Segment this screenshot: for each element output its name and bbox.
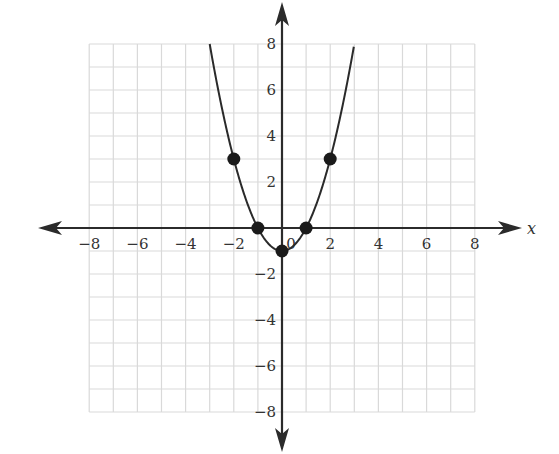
x-tick-label: −8 [78, 235, 100, 253]
x-tick-label: −2 [223, 235, 245, 253]
data-point [251, 222, 264, 235]
coordinate-plane: −8−6−4−202468 8642−2−4−6−8 x [0, 0, 559, 454]
data-point [227, 153, 240, 166]
y-tick-label: 2 [266, 173, 276, 191]
x-tick-label: 6 [422, 235, 432, 253]
y-tick-label: 8 [266, 35, 276, 53]
data-point [324, 153, 337, 166]
x-tick-label: 8 [470, 235, 480, 253]
data-point [300, 222, 313, 235]
axes [38, 2, 522, 452]
y-tick-label: −8 [254, 403, 276, 421]
x-tick-label: −6 [126, 235, 148, 253]
x-tick-label: −4 [175, 235, 197, 253]
y-tick-label: −6 [254, 357, 276, 375]
x-tick-label: 2 [325, 235, 335, 253]
data-point [276, 245, 289, 258]
y-tick-label: 4 [266, 127, 276, 145]
y-tick-label: −4 [254, 311, 276, 329]
x-tick-label: 4 [374, 235, 384, 253]
x-axis-label: x [527, 219, 536, 238]
y-tick-label: 6 [266, 81, 276, 99]
y-tick-label: −2 [254, 265, 276, 283]
